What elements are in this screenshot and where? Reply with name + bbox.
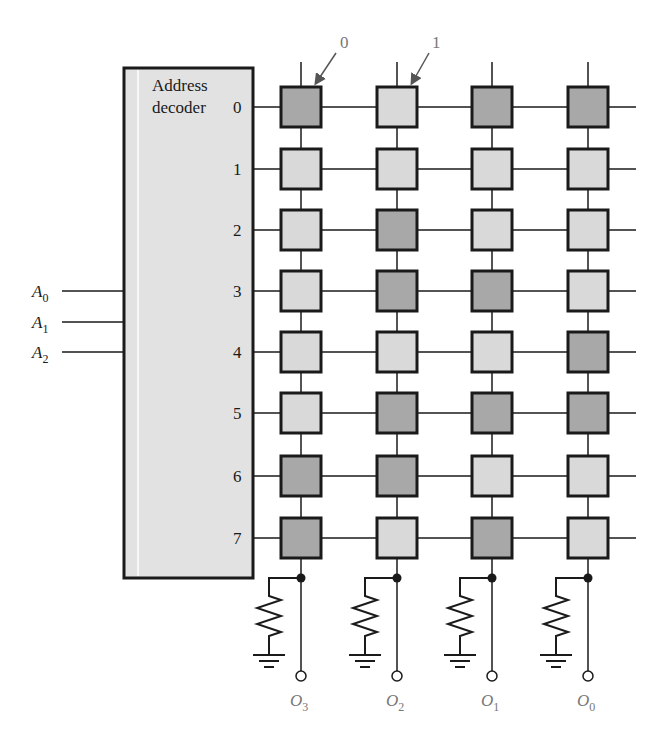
memory-cell-r1-c3-one [568,149,608,189]
output-label-o0: O0 [577,691,595,714]
resistor-icon [544,578,588,655]
memory-cell-r5-c2-zero [472,393,512,433]
decoder-label-line2: decoder [152,98,206,117]
decoder-output-label-7: 7 [233,529,242,548]
output-terminal-icon [296,671,306,681]
output-circuit-o2: O2 [349,574,404,715]
resistor-icon [257,578,301,655]
output-terminal-icon [392,671,402,681]
memory-cell-r5-c3-zero [568,393,608,433]
memory-cell-r7-c2-zero [472,518,512,558]
decoder-output-label-0: 0 [233,98,242,117]
rom-diagram: Address decoder A0A1A2 01234567 01 O3O2O… [0,0,669,740]
output-circuit-o3: O3 [253,574,308,715]
decoder-output-label-3: 3 [233,282,242,301]
memory-cell-r6-c0-zero [281,456,321,496]
memory-cell-r1-c2-one [472,149,512,189]
memory-cell-r3-c3-one [568,271,608,311]
output-label-o1: O1 [481,691,499,714]
output-circuit-o0: O0 [540,574,595,715]
memory-cell-r6-c1-zero [377,456,417,496]
decoder-output-label-4: 4 [233,343,242,362]
arrow-icon [412,53,429,83]
memory-cell-r7-c3-one [568,518,608,558]
memory-cells [281,87,608,558]
decoder-output-label-6: 6 [233,467,242,486]
input-label-a1: A1 [31,313,48,336]
decoder-output-label-5: 5 [233,404,242,423]
memory-cell-r5-c1-zero [377,393,417,433]
memory-cell-r2-c2-one [472,210,512,250]
memory-cell-r1-c1-one [377,149,417,189]
output-circuits: O3O2O1O0 [253,574,595,715]
resistor-icon [353,578,397,655]
memory-cell-r4-c2-one [472,332,512,372]
memory-cell-r2-c1-zero [377,210,417,250]
memory-cell-r6-c3-one [568,456,608,496]
memory-cell-r7-c0-zero [281,518,321,558]
bit-lines [301,62,588,671]
memory-cell-r3-c1-zero [377,271,417,311]
memory-cell-r0-c2-zero [472,87,512,127]
memory-cell-r4-c1-one [377,332,417,372]
input-label-a2: A2 [31,343,48,366]
decoder-label-line1: Address [152,76,208,95]
output-circuit-o1: O1 [444,574,499,715]
output-label-o3: O3 [290,691,308,714]
memory-cell-r6-c2-one [472,456,512,496]
memory-cell-r3-c0-one [281,271,321,311]
memory-cell-r4-c3-zero [568,332,608,372]
decoder-output-label-2: 2 [233,221,242,240]
annotation-label-1: 1 [432,33,441,52]
decoder-output-label-1: 1 [233,160,242,179]
memory-cell-r2-c0-one [281,210,321,250]
memory-cell-r0-c1-one [377,87,417,127]
address-decoder-box [124,68,253,578]
annotations: 01 [316,33,441,83]
memory-cell-r1-c0-one [281,149,321,189]
memory-cell-r0-c0-zero [281,87,321,127]
memory-cell-r4-c0-one [281,332,321,372]
arrow-icon [316,53,336,83]
memory-cell-r0-c3-zero [568,87,608,127]
input-label-a0: A0 [31,282,48,305]
resistor-icon [448,578,492,655]
memory-cell-r2-c3-one [568,210,608,250]
output-label-o2: O2 [386,691,404,714]
memory-cell-r3-c2-zero [472,271,512,311]
annotation-label-0: 0 [340,33,349,52]
decoder-inputs: A0A1A2 [31,282,124,366]
memory-cell-r7-c1-one [377,518,417,558]
output-terminal-icon [487,671,497,681]
memory-cell-r5-c0-one [281,393,321,433]
output-terminal-icon [583,671,593,681]
